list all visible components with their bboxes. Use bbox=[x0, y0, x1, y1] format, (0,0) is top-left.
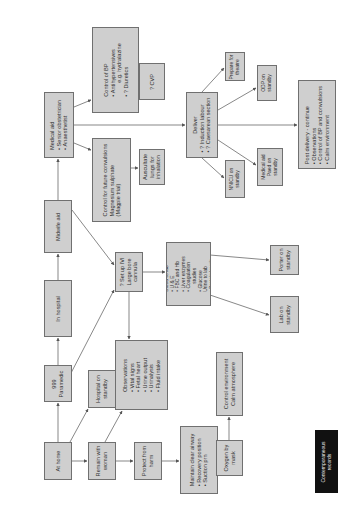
node-subtitle: Paramedic bbox=[58, 370, 65, 397]
node-nnicu-standby: NNICU on standby bbox=[225, 160, 245, 198]
node-protect-from-harm: Protect from harm bbox=[134, 442, 162, 480]
node-medical-aid: Medical aid Senior obstetrician Anaesthe… bbox=[44, 92, 74, 158]
node-line: standby bbox=[102, 375, 109, 403]
node-note: e.g. hydralazine bbox=[116, 43, 123, 97]
node-extra: : Protein levels bbox=[208, 256, 211, 291]
node-title: Maintain clear airway bbox=[189, 434, 196, 487]
node-prepare-theatre: Prepare for theatre bbox=[225, 52, 245, 81]
node-line: inhalation bbox=[155, 154, 162, 180]
node-item: Senior obstetrician bbox=[56, 100, 63, 150]
node-line: standby bbox=[285, 248, 292, 271]
node-line: Calm atmosphere bbox=[230, 359, 237, 409]
node-item: Anaesthetist bbox=[62, 100, 69, 150]
node-midwife-aid: Midwife aid bbox=[44, 200, 72, 253]
node-line: Hospital on bbox=[95, 375, 102, 403]
node-line: Remain with bbox=[95, 446, 102, 477]
node-odp-standby: ODP on standby bbox=[257, 65, 277, 101]
node-line: lungs for bbox=[149, 154, 156, 180]
node-item: Fluid intake bbox=[155, 358, 162, 392]
node-at-home: At home bbox=[44, 442, 72, 480]
node-line: Oxygen by bbox=[223, 445, 230, 472]
node-item: Control of BP and convulsions bbox=[317, 85, 324, 163]
node-line: Control environment bbox=[223, 359, 230, 409]
node-line: Auscultate bbox=[142, 154, 149, 180]
node-line: standby bbox=[273, 154, 279, 179]
node-control-bp: Control of BP Antihypertensives e.g. hyd… bbox=[92, 27, 139, 113]
node-line: theatre bbox=[235, 54, 241, 79]
node-lab-standby: Lab on standby bbox=[270, 296, 299, 333]
node-control-convulsions: Control for future convulsions Magnesium… bbox=[92, 138, 131, 222]
node-title: In hospital bbox=[55, 296, 62, 322]
node-hospital-standby: Hospital on standby bbox=[88, 370, 116, 408]
node-deliver: Deliver ? Induction labour ? Caesarean s… bbox=[186, 92, 218, 158]
node-observations: Observations Vital signs Fetal heart Uri… bbox=[115, 340, 168, 410]
node-title: Observations bbox=[122, 358, 129, 392]
node-title: At home bbox=[55, 451, 62, 472]
node-porter-standby: Porter on standby bbox=[270, 245, 299, 275]
node-title: Medical aid bbox=[49, 100, 56, 150]
node-post-delivery: Post delivery - continue Observations Co… bbox=[298, 80, 336, 169]
node-line: mask bbox=[230, 445, 237, 472]
node-oxygen-mask: Oxygen by mask bbox=[216, 440, 243, 476]
node-cvp: ? CVP bbox=[139, 63, 165, 100]
node-line: standby bbox=[267, 74, 273, 92]
node-item: Suction prn bbox=[202, 434, 209, 487]
node-line: standby bbox=[235, 168, 241, 191]
node-item: Fetal heart bbox=[135, 358, 142, 392]
node-title: Midwife aid bbox=[55, 213, 62, 241]
node-blood-to-lab: Blood to lab U & E FBC and Hb Liver enzy… bbox=[166, 242, 211, 306]
node-medical-aid-paed: Medical aid Paed on standby bbox=[257, 148, 283, 186]
node-line: Magnesium sulphate bbox=[108, 144, 115, 217]
node-maintain-airway: Maintain clear airway Recovery position … bbox=[180, 426, 218, 494]
node-line: ? Set up IVI bbox=[119, 257, 126, 286]
node-item: ? Caesarean section bbox=[205, 98, 212, 153]
node-line: records bbox=[327, 441, 333, 482]
node-title: ? CVP bbox=[149, 73, 156, 89]
node-line: Porter on bbox=[278, 248, 285, 271]
node-auscultate: Auscultate lungs for inhalation bbox=[139, 149, 165, 185]
node-item: ? Induction labour bbox=[199, 98, 206, 153]
node-set-up-ivi: ? Set up IVI Large bore cannula bbox=[115, 252, 143, 292]
node-item: ? Diuretics bbox=[122, 43, 129, 97]
node-remain-with-woman: Remain with woman bbox=[88, 442, 116, 480]
node-line: Lab on bbox=[278, 305, 285, 325]
node-line: cannula bbox=[132, 257, 139, 286]
node-item: Urinalysis bbox=[148, 358, 155, 392]
node-title: Control of BP bbox=[102, 43, 109, 97]
node-item: Urine output bbox=[142, 358, 149, 392]
node-in-hospital: In hospital bbox=[44, 280, 72, 337]
node-line: standby bbox=[285, 305, 292, 325]
node-item: Vital signs bbox=[128, 358, 135, 392]
node-title: Deliver bbox=[192, 98, 199, 153]
node-item: Observations bbox=[310, 85, 317, 163]
node-item: Antihypertensives bbox=[109, 43, 116, 97]
node-paramedic: 999 Paramedic bbox=[44, 365, 72, 402]
node-item: Recovery position bbox=[196, 434, 203, 487]
node-title: Post delivery - continue bbox=[304, 85, 311, 163]
node-contemporaneous-records: Contemporaneous records bbox=[315, 430, 338, 493]
node-item: Calm environment bbox=[324, 85, 331, 163]
node-line: (Magpie trial) bbox=[115, 144, 122, 217]
node-line: woman bbox=[102, 446, 109, 477]
node-line: Protect from bbox=[141, 446, 148, 476]
node-control-environment: Control environment Calm atmosphere bbox=[216, 352, 243, 416]
node-line: Control for future convulsions bbox=[102, 144, 109, 217]
node-line: Large bore bbox=[126, 257, 133, 286]
node-line: harm bbox=[148, 446, 155, 476]
node-title: 999 bbox=[51, 370, 58, 397]
